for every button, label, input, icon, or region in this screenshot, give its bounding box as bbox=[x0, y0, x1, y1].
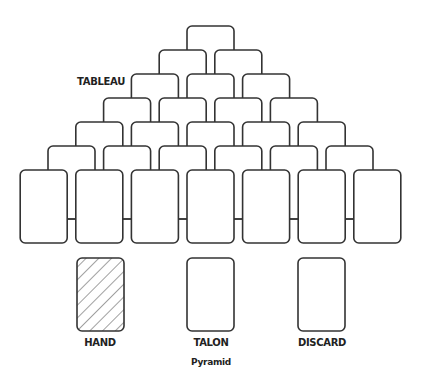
pyramid-solitaire-layout: TABLEAU HAND TALON DISCARD Pyramid bbox=[0, 0, 422, 387]
discard-label: DISCARD bbox=[282, 337, 362, 348]
tableau-card-slot[interactable] bbox=[187, 170, 234, 243]
discard-pile[interactable] bbox=[298, 258, 345, 331]
tableau-pyramid bbox=[20, 26, 401, 243]
tableau-card-slot[interactable] bbox=[354, 170, 401, 243]
tableau-card-slot[interactable] bbox=[243, 170, 290, 243]
layout-drawing bbox=[0, 0, 422, 387]
tableau-card-slot[interactable] bbox=[298, 170, 345, 243]
talon-label: TALON bbox=[171, 337, 251, 348]
tableau-card-slot[interactable] bbox=[131, 170, 178, 243]
diagram-title: Pyramid bbox=[171, 357, 251, 367]
tableau-card-slot[interactable] bbox=[20, 170, 67, 243]
hand-pile[interactable] bbox=[77, 258, 124, 331]
tableau-label: TABLEAU bbox=[77, 76, 125, 87]
hand-label: HAND bbox=[60, 337, 140, 348]
pile-area bbox=[77, 258, 345, 331]
tableau-card-slot[interactable] bbox=[76, 170, 123, 243]
talon-pile[interactable] bbox=[187, 258, 234, 331]
